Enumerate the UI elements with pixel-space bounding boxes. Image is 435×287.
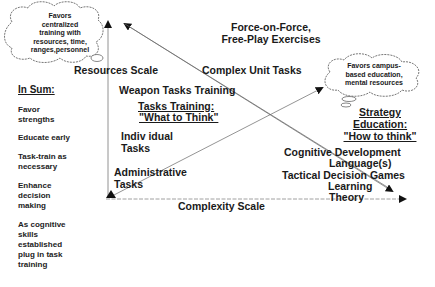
administrative-tasks-label: Administrative Tasks (114, 166, 187, 190)
summary-line: Educate early (18, 133, 98, 143)
resources-scale-label: Resources Scale (74, 64, 158, 76)
cloud-left-text: Favors centralized training with resourc… (20, 12, 100, 55)
complex-unit-tasks-label: Complex Unit Tasks (202, 64, 302, 76)
cloud-right-text: Favors campus- based education, mental r… (334, 62, 414, 88)
force-on-force-line1: Force-on-Force, (196, 21, 346, 33)
admin-line1: Administrative (114, 166, 187, 178)
summary-item: Task-train as necessary (18, 152, 98, 172)
summary-item: Enhance decision making (18, 181, 98, 211)
cloud-left-line: resources, time, (20, 38, 100, 47)
strategy-line1: Strategy (340, 106, 420, 118)
summary-panel: In Sum: Favor strengths Educate early Ta… (18, 84, 98, 270)
summary-line: plug in task (18, 250, 98, 260)
summary-line: decision (18, 191, 98, 201)
cloud-left-line: ranges,personnel (20, 46, 100, 55)
weapon-tasks-label: Weapon Tasks Training (119, 84, 235, 96)
tasks-training-subtitle: "What to Think" (139, 111, 218, 123)
cloud-left-line: centralized (20, 21, 100, 30)
strategy-education-title: Strategy Education: "How to think" (340, 106, 420, 142)
individual-line2: Tasks (121, 142, 173, 154)
summary-line: training (18, 260, 98, 270)
summary-line: strengths (18, 115, 98, 125)
admin-line2: Tasks (114, 178, 187, 190)
cloud-left-line: training with (20, 29, 100, 38)
summary-title: In Sum: (18, 84, 98, 95)
summary-item: Favor strengths (18, 105, 98, 125)
cloud-left-line: Favors (20, 12, 100, 21)
summary-line: Enhance (18, 181, 98, 191)
languages-label: Language(s) (329, 157, 391, 169)
cloud-right-line: based education, (334, 71, 414, 80)
summary-item: Educate early (18, 133, 98, 143)
summary-line: necessary (18, 162, 98, 172)
individual-line1: Indiv idual (121, 130, 173, 142)
summary-line: making (18, 201, 98, 211)
individual-tasks-label: Indiv idual Tasks (121, 130, 173, 154)
strategy-line2: Education: (340, 118, 420, 130)
cloud-right-line: Favors campus- (334, 62, 414, 71)
theory-label: Theory (329, 191, 364, 203)
force-on-force-label: Force-on-Force, Free-Play Exercises (196, 21, 346, 45)
summary-line: As cognitive (18, 220, 98, 230)
strategy-subtitle: "How to think" (340, 130, 420, 142)
summary-line: Favor (18, 105, 98, 115)
cloud-right-line: mental resources (334, 79, 414, 88)
summary-line: Task-train as (18, 152, 98, 162)
summary-line: skills (18, 230, 98, 240)
summary-line: established (18, 240, 98, 250)
summary-item: As cognitive skills established plug in … (18, 220, 98, 270)
force-on-force-line2: Free-Play Exercises (196, 33, 346, 45)
complexity-scale-label: Complexity Scale (178, 200, 265, 212)
